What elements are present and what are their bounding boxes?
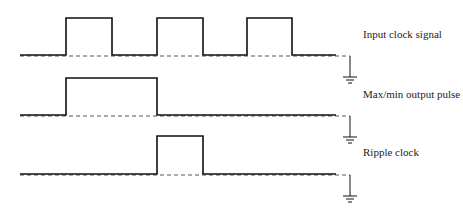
label-maxmin-pulse: Max/min output pulse <box>363 88 460 100</box>
input-clock-waveform <box>20 18 336 55</box>
timing-diagram: Input clock signal Max/min output pulse … <box>0 0 463 212</box>
label-input-clock: Input clock signal <box>363 28 442 40</box>
label-ripple-clock: Ripple clock <box>363 146 419 158</box>
ripple-clock-waveform <box>20 136 336 174</box>
maxmin-pulse-waveform <box>20 78 336 115</box>
